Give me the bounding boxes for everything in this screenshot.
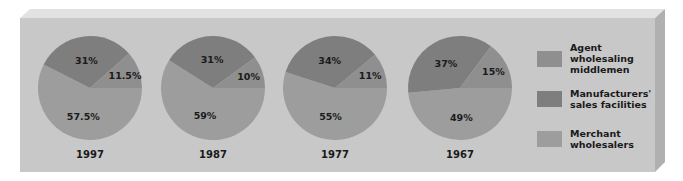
pie-label-agent: 15% [482,66,505,77]
pie-label-merchant: 49% [450,111,473,122]
pie-label-merchant: 55% [319,111,342,122]
legend-swatch-manufacturers [537,91,562,107]
pie-label-manufacturers: 34% [318,54,341,65]
legend-swatch-agent [537,51,562,67]
legend-swatch-merchant [537,131,562,147]
pie-year-label: 1977 [321,149,349,160]
pie-year-label: 1997 [76,149,104,160]
box-top-face [20,9,665,18]
legend-item-agent: Agent wholesaling middlemen [537,42,650,75]
box-side-face [655,9,665,172]
pie-label-merchant: 57.5% [67,110,100,121]
legend-label-agent: Agent wholesaling middlemen [570,42,650,75]
chart-stage: 57.5%31%11.5%199759%31%10%198755%34%11%1… [0,0,683,181]
legend-item-manufacturers: Manufacturers' sales facilities [537,88,650,110]
pie-label-manufacturers: 37% [435,58,458,69]
pie-label-manufacturers: 31% [75,54,98,65]
pie-label-agent: 11% [359,70,382,81]
pie-label-agent: 11.5% [109,69,142,80]
legend-label-merchant: Merchant wholesalers [570,128,650,150]
legend-item-merchant: Merchant wholesalers [537,128,650,150]
pie-year-label: 1987 [199,149,227,160]
pie-label-merchant: 59% [194,110,217,121]
pie-label-manufacturers: 31% [201,54,224,65]
pie-label-agent: 10% [237,71,260,82]
legend-label-manufacturers: Manufacturers' sales facilities [570,88,650,110]
pie-year-label: 1967 [446,149,474,160]
